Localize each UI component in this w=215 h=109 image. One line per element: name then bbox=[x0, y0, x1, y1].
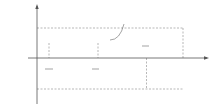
axes bbox=[28, 6, 207, 104]
guide-lines bbox=[37, 28, 183, 89]
function-plot bbox=[0, 0, 215, 109]
y-axis-arrow-icon bbox=[35, 4, 38, 9]
x-axis-arrow-icon bbox=[204, 56, 209, 59]
cos-label-leader bbox=[110, 24, 124, 40]
